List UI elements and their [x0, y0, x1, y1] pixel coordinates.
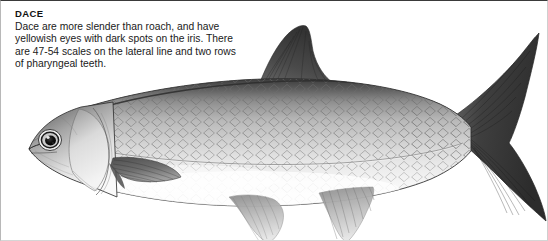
description-line-1: Dace are more slender than roach, and ha…: [15, 21, 315, 33]
anal-fin: [319, 187, 374, 241]
description-line-4: of pharyngeal teeth.: [15, 58, 315, 70]
pelvic-fin: [229, 195, 284, 241]
fish-head: [29, 102, 117, 197]
field-guide-page: DACE Dace are more slender than roach, a…: [0, 0, 548, 241]
description-line-2: yellowish eyes with dark spots on the ir…: [15, 33, 315, 45]
eye: [39, 130, 62, 151]
description-line-3: are 47-54 scales on the lateral line and…: [15, 46, 315, 58]
page-title: DACE: [15, 8, 315, 20]
description-block: DACE Dace are more slender than roach, a…: [15, 8, 315, 70]
